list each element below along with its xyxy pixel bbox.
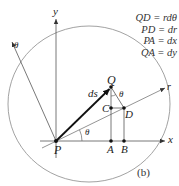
ds-vector-label: ds <box>88 88 98 99</box>
point-label-C: C <box>102 103 109 114</box>
point-label-B: B <box>121 144 128 155</box>
r-axis-label: r <box>167 82 171 92</box>
angle-arc-origin <box>80 130 83 141</box>
angle-label-QD: θ <box>119 90 123 99</box>
theta-axis-label: θ <box>14 41 18 50</box>
x-axis-label: x <box>168 134 173 145</box>
figure-caption: (b) <box>137 166 150 178</box>
y-axis-label: y <box>53 6 58 17</box>
ds-vector <box>56 89 110 141</box>
equation-PD: PD = dr <box>131 24 177 36</box>
point-label-D: D <box>125 109 133 120</box>
point-label-Q: Q <box>107 74 116 86</box>
point-label-A: A <box>107 144 114 155</box>
theta-axis <box>12 42 56 141</box>
point-label-P: P <box>54 144 61 156</box>
equation-PA: PA = dx <box>131 35 177 47</box>
equation-QA: QA = dy <box>131 47 177 59</box>
angle-arc-QD <box>111 95 116 96</box>
equation-QD: QD = rdθ <box>131 12 177 24</box>
point-C <box>109 106 113 110</box>
angle-label-origin: θ <box>85 128 89 137</box>
r-axis <box>42 88 165 148</box>
equation-list: QD = rdθ PD = dr PA = dx QA = dy <box>131 12 177 58</box>
